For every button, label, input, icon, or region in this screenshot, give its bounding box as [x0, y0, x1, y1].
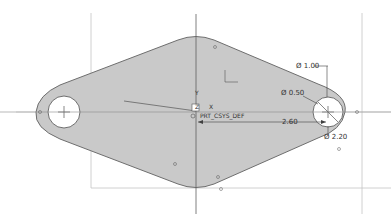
axis-z-label: Z: [195, 103, 199, 110]
axis-y-label: Y: [194, 89, 199, 96]
sketch-canvas[interactable]: Y X Z PRT_CSYS_DEF 2.60 Ø 1.00 Ø 0.50 Ø …: [0, 0, 391, 214]
dimension-dia-0-50-label: Ø 0.50: [281, 89, 304, 97]
dimension-2-60-label: 2.60: [282, 118, 298, 126]
csys-name-label: PRT_CSYS_DEF: [200, 112, 245, 120]
axis-x-label: X: [209, 103, 213, 110]
dimension-dia-2-20-label: Ø 2.20: [324, 133, 347, 141]
dimension-dia-1-00-label: Ø 1.00: [296, 62, 319, 70]
